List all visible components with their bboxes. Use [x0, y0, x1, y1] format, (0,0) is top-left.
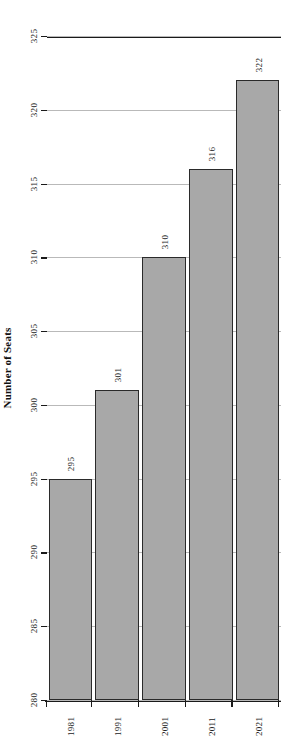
category-axis-label: 1981: [66, 717, 76, 736]
value-axis-tick-label: 295: [29, 469, 39, 489]
category-axis-tick: [185, 700, 186, 707]
value-axis-tick-label: 310: [29, 247, 39, 267]
value-axis-tick: [41, 479, 47, 480]
value-axis-tick: [41, 626, 47, 627]
bar-chart-figure: 295301310316322 325320315310305300295290…: [0, 0, 299, 744]
bar: [95, 390, 139, 700]
category-axis-label: 1991: [113, 717, 123, 736]
bar: [236, 80, 280, 700]
plot-area: 295301310316322 325320315310305300295290…: [47, 36, 281, 700]
category-axis-tick: [46, 700, 47, 707]
value-axis-tick: [41, 405, 47, 406]
category-axis-tick: [278, 700, 279, 707]
bar-value-label: 310: [160, 231, 170, 253]
bar-value-label: 322: [254, 54, 264, 76]
bar-value-label: 295: [66, 453, 76, 475]
value-axis-tick: [41, 36, 47, 37]
rotated-figure-wrapper: 295301310316322 325320315310305300295290…: [0, 0, 299, 744]
category-axis-tick: [138, 700, 139, 707]
bar: [189, 169, 233, 700]
value-axis-tick-label: 325: [29, 26, 39, 46]
bar-value-label: 301: [113, 364, 123, 386]
value-axis-tick: [41, 552, 47, 553]
gridline: [47, 36, 281, 37]
category-axis-tick: [91, 700, 92, 707]
gridline: [47, 700, 281, 701]
category-axis-label: 2011: [207, 717, 217, 736]
category-axis-label: 2021: [254, 717, 264, 736]
value-axis-tick: [41, 257, 47, 258]
bar: [142, 257, 186, 700]
value-axis-tick-label: 280: [29, 690, 39, 710]
value-axis-tick: [41, 110, 47, 111]
value-axis-title: Number of Seats: [1, 36, 13, 700]
bar: [49, 479, 93, 700]
value-axis-tick-label: 315: [29, 174, 39, 194]
category-axis-tick: [231, 700, 232, 707]
value-axis-tick-label: 320: [29, 100, 39, 120]
value-axis-tick-label: 305: [29, 321, 39, 341]
value-axis-tick: [41, 184, 47, 185]
category-axis-label: 2001: [160, 717, 170, 736]
value-axis-tick-label: 285: [29, 616, 39, 636]
bar-value-label: 316: [207, 143, 217, 165]
value-axis-tick-label: 300: [29, 395, 39, 415]
value-axis-tick-label: 290: [29, 542, 39, 562]
value-axis-tick: [41, 331, 47, 332]
